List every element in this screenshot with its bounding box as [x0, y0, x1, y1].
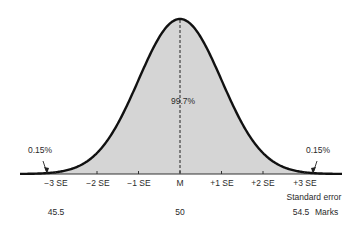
tick-label-mean: M	[176, 178, 183, 188]
tick-label-minus1: −1 SE	[127, 178, 150, 188]
marks-title: Marks	[315, 207, 338, 217]
tick-label-plus1: +1 SE	[210, 178, 233, 188]
marks-value-mean: 50	[175, 207, 184, 217]
tick-label-plus2: +2 SE	[251, 178, 274, 188]
center-percentage-label: 99.7%	[171, 96, 195, 106]
tick-label-minus2: −2 SE	[86, 178, 109, 188]
right-tail-label: 0.15%	[306, 145, 330, 155]
marks-value-low: 45.5	[48, 207, 65, 217]
left-tail-label: 0.15%	[28, 145, 52, 155]
marks-value-high: 54.5	[293, 207, 310, 217]
tick-label-plus3: +3 SE	[293, 178, 316, 188]
axis-title-standard-error: Standard error	[287, 192, 342, 202]
tick-label-minus3: −3 SE	[44, 178, 67, 188]
